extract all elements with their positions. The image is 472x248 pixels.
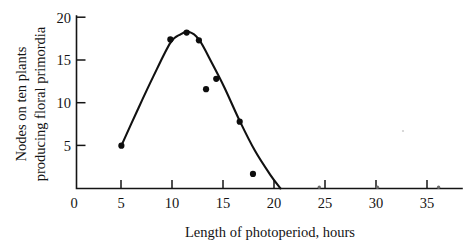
x-tick-label-30: 30: [369, 195, 384, 211]
y-axis-title-line2: producing floral primordia: [32, 26, 48, 181]
scan-specks: [306, 130, 404, 237]
y-axis-title-line1: Nodes on ten plants: [13, 46, 29, 161]
x-tick-label-10: 10: [165, 195, 180, 211]
x-axis-title: Length of photoperiod, hours: [185, 224, 355, 240]
y-axis-title: Nodes on ten plants producing floral pri…: [13, 26, 48, 181]
x-tick-label-25: 25: [318, 195, 333, 211]
x-tick-label-15: 15: [216, 195, 231, 211]
y-tick-label-20: 20: [57, 10, 72, 26]
y-tick-label-10: 10: [57, 95, 72, 111]
data-points-group: [118, 30, 440, 189]
x-tick-label-0: 0: [70, 195, 77, 211]
data-point: [118, 143, 124, 149]
data-point: [196, 37, 202, 43]
y-tick-label-15: 15: [57, 52, 72, 68]
y-tick-labels: 20 15 10 5: [57, 10, 72, 154]
data-point: [250, 171, 256, 177]
data-point: [376, 186, 379, 189]
x-tick-label-5: 5: [117, 195, 124, 211]
data-point: [437, 186, 440, 189]
scatter-chart-svg: 20 15 10 5 0 5 10 15 20 25 30 35 Length …: [0, 0, 472, 248]
speck-2: [306, 235, 308, 237]
y-axis-ticks: [77, 17, 86, 145]
axis-lines: [77, 16, 463, 189]
fitted-curve: [121, 32, 280, 189]
data-point: [167, 36, 173, 42]
x-tick-label-20: 20: [267, 195, 282, 211]
x-tick-labels: 0 5 10 15 20 25 30 35: [70, 195, 434, 211]
data-point: [203, 86, 209, 92]
data-point: [318, 186, 321, 189]
data-point: [237, 119, 243, 125]
x-tick-label-35: 35: [420, 195, 435, 211]
chart-figure: 20 15 10 5 0 5 10 15 20 25 30 35 Length …: [0, 0, 472, 248]
data-point: [184, 30, 190, 36]
data-point: [213, 76, 219, 82]
y-tick-label-5: 5: [64, 138, 71, 154]
chart-axes: [77, 16, 463, 189]
speck-1: [402, 130, 404, 132]
